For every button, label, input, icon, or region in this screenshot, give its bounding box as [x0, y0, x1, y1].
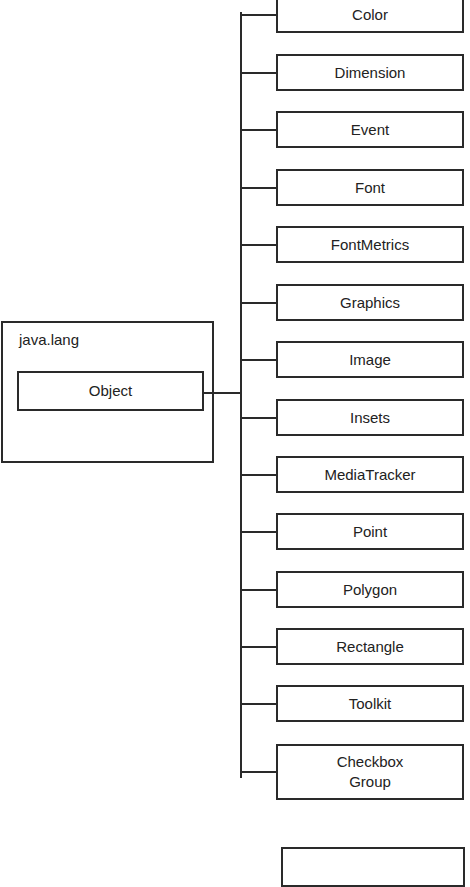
- class-label: Checkbox Group: [337, 752, 404, 792]
- class-toolkit: Toolkit: [276, 685, 464, 722]
- branch-connector: [240, 14, 277, 16]
- branch-connector: [240, 771, 277, 773]
- branch-connector: [240, 417, 277, 419]
- class-fontmetrics: FontMetrics: [276, 226, 464, 263]
- class-object-label: Object: [89, 381, 132, 401]
- class-label: Color: [352, 5, 388, 25]
- class-graphics: Graphics: [276, 284, 464, 321]
- class-label: Font: [355, 178, 385, 198]
- branch-connector: [240, 531, 277, 533]
- class-label: Toolkit: [349, 694, 392, 714]
- class-rectangle: Rectangle: [276, 628, 464, 665]
- branch-connector: [240, 589, 277, 591]
- class-insets: Insets: [276, 399, 464, 436]
- branch-connector: [240, 72, 277, 74]
- class-polygon: Polygon: [276, 571, 464, 608]
- branch-connector: [240, 646, 277, 648]
- branch-connector: [240, 187, 277, 189]
- branch-connector: [240, 359, 277, 361]
- class-event: Event: [276, 111, 464, 148]
- class-label: FontMetrics: [331, 235, 409, 255]
- branch-connector: [240, 244, 277, 246]
- class-point: Point: [276, 513, 464, 550]
- class-image: Image: [276, 341, 464, 378]
- branch-connector: [240, 703, 277, 705]
- class-object: Object: [17, 371, 204, 411]
- class-label: Insets: [350, 408, 390, 428]
- class-label: Image: [349, 350, 391, 370]
- class-label: Rectangle: [336, 637, 404, 657]
- class-label: Dimension: [335, 63, 406, 83]
- partial-class-box: [281, 847, 465, 887]
- branch-connector: [240, 474, 277, 476]
- class-label: Point: [353, 522, 387, 542]
- connector-object-trunk: [203, 392, 242, 394]
- branch-connector: [240, 129, 277, 131]
- class-label: MediaTracker: [324, 465, 415, 485]
- class-color: Color: [276, 0, 464, 33]
- class-label: Event: [351, 120, 389, 140]
- class-mediatracker: MediaTracker: [276, 456, 464, 493]
- package-label: java.lang: [19, 331, 79, 348]
- class-checkbox-group: Checkbox Group: [276, 744, 464, 800]
- branch-connector: [240, 302, 277, 304]
- class-label: Graphics: [340, 293, 400, 313]
- class-font: Font: [276, 169, 464, 206]
- trunk-line: [240, 12, 242, 778]
- class-label: Polygon: [343, 580, 397, 600]
- class-dimension: Dimension: [276, 54, 464, 91]
